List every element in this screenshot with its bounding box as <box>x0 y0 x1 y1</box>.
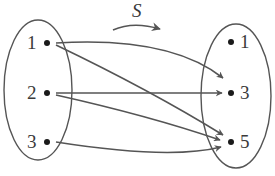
arrow-1-to-5-icon <box>56 45 223 135</box>
domain-element-2: 2 <box>27 82 50 103</box>
codomain-element-1: 1 <box>228 31 250 52</box>
domain-element-label: 2 <box>27 82 37 103</box>
domain-element-3: 3 <box>27 131 50 152</box>
codomain-element-label: 3 <box>240 82 250 103</box>
codomain-point-icon <box>228 90 234 96</box>
domain-element-label: 1 <box>27 32 37 53</box>
domain-element-1: 1 <box>27 32 50 53</box>
codomain-point-icon <box>228 139 234 145</box>
domain-point-icon <box>44 40 50 46</box>
domain-ellipse <box>4 20 72 160</box>
codomain-element-5: 5 <box>228 131 250 152</box>
mapping-arrow-icon <box>113 25 160 30</box>
codomain-element-label: 5 <box>240 131 250 152</box>
codomain-ellipse <box>201 24 271 168</box>
codomain-set: 1 3 5 <box>201 24 271 168</box>
relation-diagram: S 1 2 3 1 3 5 <box>0 0 275 176</box>
domain-point-icon <box>44 90 50 96</box>
mapping-label-group: S <box>113 0 160 30</box>
arrow-1-to-3-icon <box>56 42 223 78</box>
codomain-element-3: 3 <box>228 82 250 103</box>
domain-point-icon <box>44 139 50 145</box>
domain-element-label: 3 <box>27 131 37 152</box>
codomain-point-icon <box>228 39 234 45</box>
arrow-3-to-5-icon <box>56 142 221 152</box>
codomain-element-label: 1 <box>240 31 250 52</box>
relation-arrows <box>56 42 223 152</box>
domain-set: 1 2 3 <box>4 20 72 160</box>
mapping-label: S <box>132 0 142 21</box>
